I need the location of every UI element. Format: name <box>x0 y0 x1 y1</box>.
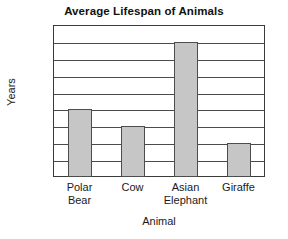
x-axis-title: Animal <box>53 215 265 227</box>
x-category-label-line: Elephant <box>159 194 212 207</box>
x-category-label-line: Giraffe <box>212 181 265 194</box>
chart-title: Average Lifespan of Animals <box>0 5 288 17</box>
x-category-label: AsianElephant <box>159 181 212 207</box>
x-category-label-line: Cow <box>106 181 159 194</box>
x-category-label: PolarBear <box>53 181 106 207</box>
x-category-label-line: Bear <box>53 194 106 207</box>
x-category-label: Giraffe <box>212 181 265 194</box>
x-category-label-line: Polar <box>53 181 106 194</box>
x-axis-category-labels: PolarBearCowAsianElephantGiraffe <box>53 181 265 215</box>
y-axis-ticks: 051015202530354045 <box>53 25 265 177</box>
bar-chart-figure: Average Lifespan of Animals Years 051015… <box>0 0 288 239</box>
x-category-label-line: Asian <box>159 181 212 194</box>
x-category-label: Cow <box>106 181 159 194</box>
y-axis-title: Years <box>5 62 17 122</box>
